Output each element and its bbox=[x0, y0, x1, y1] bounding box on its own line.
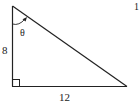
hypotenuse bbox=[13, 6, 128, 87]
triangle-diagram: θ 8 12 1 bbox=[0, 0, 139, 104]
right-triangle bbox=[13, 6, 128, 87]
angle-arc bbox=[13, 19, 26, 24]
right-angle-marker bbox=[13, 80, 20, 87]
angle-label: θ bbox=[20, 27, 25, 38]
corner-number: 1 bbox=[134, 1, 139, 12]
vertical-leg-label: 8 bbox=[2, 44, 8, 56]
horizontal-leg-label: 12 bbox=[59, 91, 70, 103]
